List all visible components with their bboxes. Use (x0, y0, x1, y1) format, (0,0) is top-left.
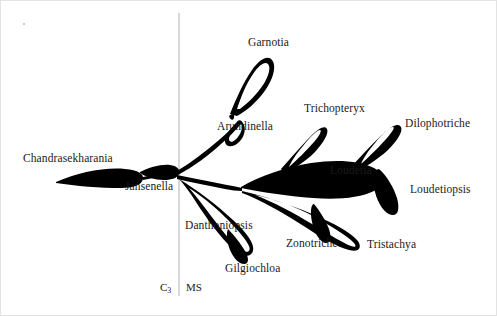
branch-trunk-right (177, 175, 242, 191)
branch-loudetiopsis (374, 169, 399, 215)
cladogram-figure: Chandrasekharania Jansenella Garnotia Ar… (0, 0, 497, 316)
branch-danthoniopsis (179, 179, 253, 256)
taxon-label-zonotriche: Zonotriche (286, 238, 337, 250)
axis-label-c3: C3 (160, 282, 171, 293)
taxon-label-loudetiopsis: Loudetiopsis (410, 184, 471, 196)
taxon-label-trichopteryx: Trichopteryx (304, 103, 365, 115)
branch-garnotia (230, 58, 274, 116)
taxon-label-jansenella: Jansenella (125, 181, 173, 193)
taxon-label-garnotia: Garnotia (248, 37, 289, 49)
taxon-label-loudetia: Loudetia (330, 165, 372, 177)
taxon-label-dilophotriche: Dilophotriche (405, 118, 470, 130)
taxon-label-arundinella: Arundinella (217, 121, 273, 133)
axis-label-ms: MS (186, 282, 202, 293)
branch-garnotia-stem (229, 114, 234, 119)
taxon-label-tristachya: Tristachya (367, 239, 416, 251)
taxon-label-danthoniopsis: Danthoniopsis (185, 220, 253, 232)
axis-c3-subscript: 3 (167, 286, 171, 295)
taxon-label-gilgiochloa: Gilgiochloa (225, 263, 280, 275)
taxon-label-chandrasekharania: Chandrasekharania (23, 153, 113, 165)
